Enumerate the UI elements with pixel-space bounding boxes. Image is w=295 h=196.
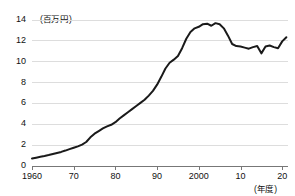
x-tick-label: 20 [277,172,287,181]
x-axis-tick-marks [33,166,283,170]
gridlines [32,20,288,145]
data-series-group [32,23,286,158]
x-tick-label: 80 [110,172,120,181]
x-tick-label: 70 [69,172,79,181]
x-axis-unit-label: (年度) [254,182,277,194]
x-tick-label: 1960 [22,172,42,181]
plot-area [0,0,295,196]
x-tick-label: 10 [235,172,245,181]
data-line [32,23,286,158]
x-tick-label: 90 [152,172,162,181]
line-chart: (百万円) 02468101214 196070809020001020 (年度… [0,0,295,196]
x-tick-label: 2000 [189,172,209,181]
